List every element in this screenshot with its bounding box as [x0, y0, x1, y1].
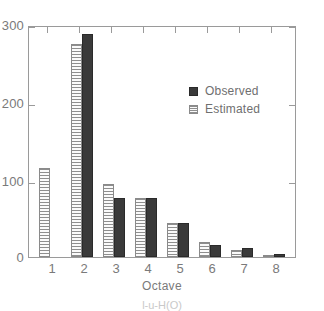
bar-observed-octave-5: [178, 223, 189, 257]
x-tick-label-1: 1: [42, 262, 62, 275]
legend-swatch-estimated-icon: [189, 105, 198, 114]
x-axis-title: Octave: [0, 279, 324, 293]
chart-legend: Observed Estimated: [189, 83, 260, 119]
bar-estimated-octave-7: [231, 250, 242, 257]
legend-label-estimated: Estimated: [205, 102, 260, 116]
bar-estimated-octave-8: [263, 255, 274, 257]
bar-observed-octave-7: [242, 248, 253, 257]
y-tick-label-200: 200: [2, 97, 24, 110]
plot-frame: [28, 26, 296, 258]
bar-observed-octave-4: [146, 198, 157, 257]
x-tick-label-5: 5: [170, 262, 190, 275]
legend-label-observed: Observed: [205, 84, 259, 98]
bar-estimated-octave-3: [103, 184, 114, 257]
bar-estimated-octave-1: [39, 168, 50, 257]
x-tick-label-3: 3: [106, 262, 126, 275]
bar-observed-octave-6: [210, 245, 221, 257]
bar-observed-octave-2: [82, 34, 93, 257]
bar-estimated-octave-6: [199, 242, 210, 257]
figure-caption: l-u-H(O): [0, 299, 324, 311]
bar-estimated-octave-2: [71, 44, 82, 257]
x-tick-label-7: 7: [234, 262, 254, 275]
y-tick-label-0: 0: [17, 251, 24, 264]
legend-item-observed: Observed: [189, 83, 260, 99]
x-tick-label-8: 8: [266, 262, 286, 275]
bar-estimated-octave-5: [167, 223, 178, 257]
bar-observed-octave-8: [274, 254, 285, 257]
y-tick-label-300: 300: [2, 19, 24, 32]
x-tick-label-4: 4: [138, 262, 158, 275]
bar-observed-octave-3: [114, 198, 125, 257]
legend-item-estimated: Estimated: [189, 101, 260, 117]
bar-estimated-octave-4: [135, 198, 146, 257]
x-tick-label-6: 6: [202, 262, 222, 275]
x-tick-label-2: 2: [74, 262, 94, 275]
bar-chart-figure: 0 100 200 300 1 2 3 4 5 6 7 8 Octave: [0, 0, 324, 311]
y-tick-label-100: 100: [2, 175, 24, 188]
legend-swatch-observed-icon: [189, 87, 198, 96]
plot-area: [29, 27, 295, 257]
